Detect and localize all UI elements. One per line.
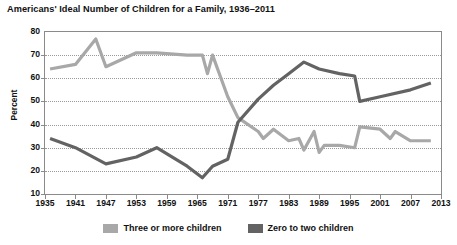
chart-figure: Americans' Ideal Number of Children for … <box>0 0 457 245</box>
series-lines <box>45 32 441 194</box>
x-tick-mark-2007 <box>411 195 412 199</box>
y-tick-label-60: 60 <box>0 72 40 82</box>
x-tick-mark-1935 <box>45 195 46 199</box>
y-tick-label-50: 50 <box>0 95 40 105</box>
legend-label-1: Three or more children <box>123 223 221 233</box>
plot-area <box>44 31 442 195</box>
legend-swatch-icon-1 <box>103 224 118 233</box>
x-tick-mark-1947 <box>106 195 107 199</box>
x-tick-mark-1977 <box>258 195 259 199</box>
y-tick-label-20: 20 <box>0 165 40 175</box>
y-tick-label-40: 40 <box>0 119 40 129</box>
x-tick-mark-2001 <box>380 195 381 199</box>
x-tick-mark-1965 <box>197 195 198 199</box>
x-tick-mark-1971 <box>228 195 229 199</box>
x-tick-mark-1959 <box>167 195 168 199</box>
x-tick-mark-2013 <box>441 195 442 199</box>
x-tick-label-2013: 2013 <box>421 198 457 208</box>
legend-item-1[interactable]: Three or more children <box>103 223 221 233</box>
y-tick-label-80: 80 <box>0 26 40 36</box>
series-line-1 <box>50 39 431 152</box>
chart-legend: Three or more childrenZero to two childr… <box>0 223 457 233</box>
legend-swatch-icon-2 <box>248 224 263 233</box>
y-tick-label-30: 30 <box>0 142 40 152</box>
y-tick-label-10: 10 <box>0 188 40 198</box>
x-tick-mark-1995 <box>350 195 351 199</box>
x-tick-mark-1941 <box>75 195 76 199</box>
chart-title: Americans' Ideal Number of Children for … <box>7 4 275 14</box>
series-line-2 <box>50 62 431 178</box>
y-tick-label-70: 70 <box>0 49 40 59</box>
x-tick-mark-1989 <box>319 195 320 199</box>
legend-item-2[interactable]: Zero to two children <box>248 223 354 233</box>
legend-label-2: Zero to two children <box>268 223 354 233</box>
plot-inner <box>45 32 441 194</box>
x-tick-mark-1953 <box>136 195 137 199</box>
x-tick-mark-1983 <box>289 195 290 199</box>
